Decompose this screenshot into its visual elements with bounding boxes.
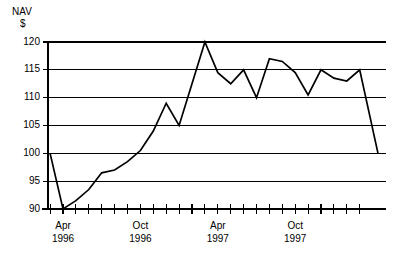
y-tick-label-100: 100 (23, 147, 40, 158)
x-tick-labels: Apr1996Oct1996Apr1997Oct1997 (52, 220, 307, 244)
y-axis-title-line1: NAV (12, 6, 32, 17)
y-tick-label-90: 90 (29, 203, 41, 214)
x-tick-label-year-13: 1997 (207, 233, 230, 244)
x-tick-label-month-1: Apr (55, 220, 71, 231)
y-tick-labels: 9095100105110115120 (23, 36, 40, 214)
gridlines (43, 42, 386, 209)
y-tick-label-120: 120 (23, 36, 40, 47)
chart-plot-area: 9095100105110115120 Apr1996Oct1996Apr199… (0, 0, 405, 257)
y-tick-label-115: 115 (24, 63, 40, 74)
x-tick-label-year-19: 1997 (284, 233, 307, 244)
y-axis-title-line2: $ (20, 18, 26, 29)
y-tick-label-110: 110 (24, 91, 40, 102)
x-tick-label-year-1: 1996 (52, 233, 75, 244)
y-tick-label-95: 95 (29, 175, 41, 186)
y-tick-label-105: 105 (23, 119, 40, 130)
x-tick-label-year-7: 1996 (129, 233, 152, 244)
x-tick-label-month-13: Apr (210, 220, 226, 231)
x-tick-label-month-7: Oct (133, 220, 149, 231)
x-tick-label-month-19: Oct (287, 220, 303, 231)
nav-chart: NAV $ 9095100105110115120 Apr1996Oct1996… (0, 0, 405, 257)
